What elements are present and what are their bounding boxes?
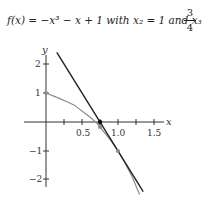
y-tick-label: 2	[35, 59, 41, 69]
function-curve	[46, 93, 140, 194]
x-tick-label: 1.0	[111, 128, 126, 138]
y-tick-label: 1	[35, 88, 41, 98]
plot-area: 0.5 1.0 1.5 2 1 −1 −2 x y	[0, 0, 205, 201]
x-tick-label: 1.5	[147, 128, 162, 138]
y-tick-label: −2	[29, 174, 42, 184]
point-x3-root	[98, 120, 102, 124]
point-f-x2	[116, 149, 120, 153]
point-f0	[44, 91, 48, 95]
point-f-x3	[98, 125, 102, 129]
x-tick-label: 0.5	[76, 128, 91, 138]
x-axis-label: x	[166, 116, 172, 127]
y-axis-label: y	[41, 44, 48, 55]
y-tick-label: −1	[29, 146, 42, 156]
